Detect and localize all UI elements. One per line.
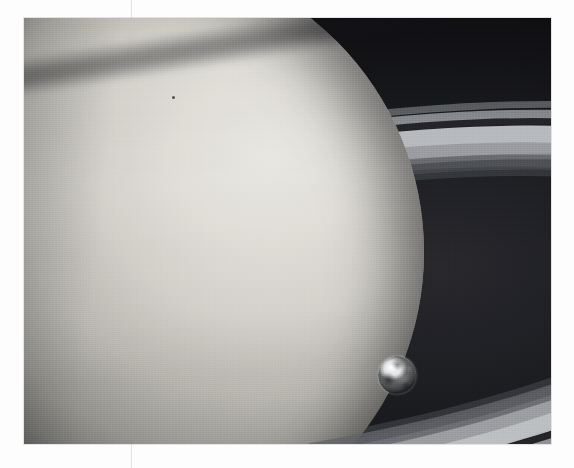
saturn-earth-photograph: Black-and-white spacecraft photograph of… [24, 18, 551, 444]
earth-disc [378, 356, 416, 394]
page-canvas: Black-and-white spacecraft photograph of… [0, 0, 574, 468]
disc-spot [172, 96, 175, 99]
earth-limb-shading [378, 356, 416, 394]
saturn-terminator [24, 18, 424, 444]
photo-inner: Black-and-white spacecraft photograph of… [24, 18, 551, 444]
saturn-disc [24, 18, 424, 444]
